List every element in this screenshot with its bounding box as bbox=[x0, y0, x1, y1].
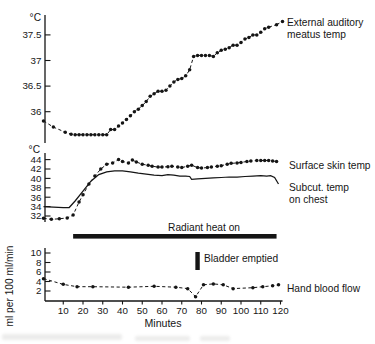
skin-and-subcutaneous-temp-y-axis-unit: °C bbox=[29, 144, 40, 155]
surface-skin-temp-point bbox=[255, 159, 259, 163]
external-auditory-meatus-temp-point bbox=[125, 118, 129, 122]
y-tick-label: 2 bbox=[36, 285, 41, 296]
surface-skin-temp-point bbox=[77, 200, 81, 204]
x-tick-label: 30 bbox=[97, 305, 108, 316]
surface-skin-temp-point bbox=[71, 213, 75, 217]
surface-skin-temp-point bbox=[121, 160, 125, 164]
external-auditory-meatus-temp-point bbox=[85, 133, 89, 137]
external-auditory-meatus-temp-point bbox=[63, 130, 67, 134]
scan-artifact bbox=[135, 336, 190, 341]
surface-skin-temp-point bbox=[196, 166, 200, 170]
surface-skin-temp-point bbox=[146, 163, 150, 167]
external-auditory-meatus-temp-point bbox=[235, 43, 239, 47]
surface-skin-temp-point bbox=[229, 162, 233, 166]
external-auditory-meatus-temp-point bbox=[156, 89, 160, 93]
external-auditory-meatus-temp-point bbox=[164, 88, 168, 92]
surface-skin-temp-point bbox=[99, 167, 103, 171]
hand-blood-flow-point bbox=[186, 287, 190, 291]
external-auditory-meatus-temp-point bbox=[184, 74, 188, 78]
surface-skin-temp-point bbox=[170, 164, 174, 168]
radiant-heat-on-label: Radiant heat on bbox=[168, 222, 240, 233]
hand-blood-flow-point bbox=[152, 285, 156, 289]
hand-blood-flow-point bbox=[221, 283, 225, 287]
external-auditory-meatus-temp-label: meatus temp bbox=[287, 29, 346, 40]
external-auditory-meatus-temp-point bbox=[208, 54, 212, 58]
external-auditory-meatus-temp-point bbox=[192, 55, 196, 59]
hand-blood-flow-point bbox=[75, 285, 79, 289]
hand-blood-flow-point bbox=[261, 285, 265, 289]
hand-blood-flow-point bbox=[212, 282, 216, 286]
x-tick-label: 60 bbox=[157, 305, 168, 316]
external-auditory-meatus-temp-point bbox=[176, 78, 180, 82]
external-auditory-meatus-temp-point bbox=[69, 132, 73, 136]
hand-blood-flow-point bbox=[91, 285, 95, 289]
external-auditory-meatus-temp-point bbox=[73, 133, 77, 137]
external-auditory-meatus-temp-point bbox=[281, 20, 285, 24]
surface-skin-temp-point bbox=[200, 166, 204, 170]
external-auditory-meatus-temp-point bbox=[267, 25, 271, 29]
scan-artifact bbox=[200, 336, 230, 341]
x-tick-label: 70 bbox=[176, 305, 187, 316]
hand-blood-flow-point bbox=[251, 286, 255, 290]
figure-svg: 37.53736.536°CExternal auditorymeatus te… bbox=[0, 0, 375, 344]
external-auditory-meatus-temp-point bbox=[89, 133, 93, 137]
external-auditory-meatus-temp-y-axis-unit: °C bbox=[30, 12, 41, 23]
external-auditory-meatus-temp-point bbox=[227, 46, 231, 50]
external-auditory-meatus-temp-point bbox=[180, 77, 184, 81]
surface-skin-temp-point bbox=[131, 158, 135, 162]
external-auditory-meatus-temp-point bbox=[239, 41, 243, 45]
external-auditory-meatus-temp-point bbox=[144, 100, 148, 104]
external-auditory-meatus-temp-point bbox=[251, 33, 255, 37]
external-auditory-meatus-temp-point bbox=[212, 55, 216, 59]
surface-skin-temp-point bbox=[259, 159, 263, 163]
surface-skin-temp-point bbox=[271, 159, 275, 163]
external-auditory-meatus-temp-point bbox=[168, 84, 172, 88]
external-auditory-meatus-temp-label: External auditory bbox=[287, 17, 364, 28]
hand-blood-flow-point bbox=[202, 283, 206, 287]
y-tick-label: 37.5 bbox=[22, 29, 42, 40]
surface-skin-temp-point bbox=[111, 161, 115, 165]
surface-skin-temp-point bbox=[263, 159, 267, 163]
external-auditory-meatus-temp-point bbox=[152, 92, 156, 96]
surface-skin-temp-point bbox=[58, 217, 62, 221]
external-auditory-meatus-temp-point bbox=[109, 128, 113, 132]
surface-skin-temp-point bbox=[176, 165, 180, 169]
external-auditory-meatus-temp-point bbox=[77, 133, 81, 137]
surface-skin-temp-point bbox=[249, 159, 253, 163]
x-tick-label: 10 bbox=[58, 305, 69, 316]
surface-skin-temp-point bbox=[65, 216, 69, 220]
external-auditory-meatus-temp-point bbox=[129, 114, 133, 118]
y-tick-label: 36 bbox=[31, 106, 42, 117]
subcut-temp-on-chest-label: Subcut. temp bbox=[289, 182, 349, 193]
surface-skin-temp-point bbox=[206, 166, 210, 170]
external-auditory-meatus-temp-point bbox=[101, 133, 105, 137]
external-auditory-meatus-temp-point bbox=[97, 133, 101, 137]
x-tick-label: 110 bbox=[253, 305, 269, 316]
hand-blood-flow-point bbox=[127, 285, 131, 289]
surface-skin-temp-point bbox=[267, 159, 271, 163]
external-auditory-meatus-temp-point bbox=[188, 68, 192, 72]
bladder-emptied-label: Bladder emptied bbox=[204, 253, 279, 264]
external-auditory-meatus-temp-point bbox=[81, 133, 85, 137]
radiant-heat-on-bar bbox=[73, 234, 276, 239]
external-auditory-meatus-temp-point bbox=[133, 110, 137, 114]
external-auditory-meatus-temp-point bbox=[117, 124, 121, 128]
hand-blood-flow-y-axis-label: ml per 100 ml/min bbox=[4, 246, 15, 327]
external-auditory-meatus-temp-point bbox=[223, 47, 227, 51]
surface-skin-temp-point bbox=[210, 165, 214, 169]
external-auditory-meatus-temp-point bbox=[243, 37, 247, 41]
surface-skin-temp-point bbox=[235, 161, 239, 165]
scan-artifact bbox=[2, 334, 122, 340]
x-tick-label: 90 bbox=[216, 305, 227, 316]
external-auditory-meatus-temp-point bbox=[263, 27, 267, 31]
external-auditory-meatus-temp-point bbox=[196, 54, 200, 58]
x-tick-label: 100 bbox=[233, 305, 250, 316]
surface-skin-temp-label: Surface skin temp bbox=[289, 160, 371, 171]
surface-skin-temp-point bbox=[156, 165, 160, 169]
surface-skin-temp-point bbox=[216, 164, 220, 168]
surface-skin-temp-line bbox=[44, 160, 277, 220]
surface-skin-temp-point bbox=[105, 163, 109, 167]
external-auditory-meatus-temp-point bbox=[121, 121, 125, 125]
external-auditory-meatus-temp-point bbox=[204, 54, 208, 58]
hand-blood-flow-line bbox=[44, 279, 279, 297]
